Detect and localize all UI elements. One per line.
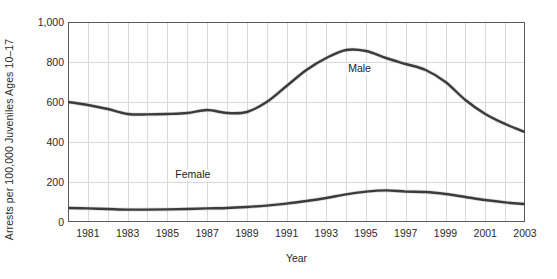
- x-tick-label: 1997: [386, 228, 426, 239]
- x-tick-label: 2003: [505, 228, 545, 239]
- x-tick-label: 2001: [465, 228, 505, 239]
- series-label-female: Female: [173, 169, 212, 181]
- series-label-male: Male: [346, 63, 373, 75]
- x-tick-label: 1999: [426, 228, 466, 239]
- x-tick-label: 1993: [306, 228, 346, 239]
- horizontal-gridlines: [68, 63, 525, 183]
- x-axis-label: Year: [68, 252, 525, 264]
- series-halo-female: [68, 190, 525, 209]
- x-tick-label: 1985: [147, 228, 187, 239]
- chart-figure: Arrests per 100,000 Juveniles Ages 10–17…: [0, 0, 557, 279]
- x-tick-label: 1983: [108, 228, 148, 239]
- plot-area: MaleFemale: [68, 22, 525, 222]
- x-tick-label: 1981: [68, 228, 108, 239]
- x-tick-label: 1991: [267, 228, 307, 239]
- series-line-male: [68, 49, 525, 132]
- x-tick-label: 1987: [187, 228, 227, 239]
- x-tick-label: 1995: [346, 228, 386, 239]
- series-line-female: [68, 190, 525, 209]
- line-chart-svg: [68, 22, 525, 222]
- plot-border: [69, 23, 525, 222]
- data-series: [68, 49, 525, 209]
- x-tick-label: 1989: [227, 228, 267, 239]
